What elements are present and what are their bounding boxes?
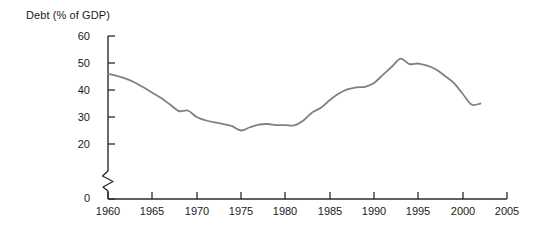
- debt-series-line: [108, 59, 480, 131]
- y-axis-ticks: [108, 36, 115, 199]
- y-tick-label-40: 40: [62, 84, 90, 96]
- x-tick-label-1960: 1960: [96, 205, 120, 217]
- x-tick-label-1970: 1970: [185, 205, 209, 217]
- x-tick-label-1995: 1995: [406, 205, 430, 217]
- x-tick-label-1965: 1965: [140, 205, 164, 217]
- y-tick-label-0: 0: [62, 192, 90, 204]
- x-tick-label-1985: 1985: [318, 205, 342, 217]
- y-tick-label-20: 20: [62, 138, 90, 150]
- x-tick-label-1990: 1990: [362, 205, 386, 217]
- x-tick-label-2000: 2000: [451, 205, 475, 217]
- y-axis-break-zigzag-icon: [103, 171, 114, 191]
- y-tick-label-50: 50: [62, 57, 90, 69]
- y-tick-label-60: 60: [62, 30, 90, 42]
- x-axis-ticks: [108, 192, 507, 199]
- y-tick-label-30: 30: [62, 111, 90, 123]
- x-tick-label-2005: 2005: [495, 205, 519, 217]
- x-tick-label-1975: 1975: [229, 205, 253, 217]
- x-tick-label-1980: 1980: [273, 205, 297, 217]
- debt-gdp-line-chart: Debt (% of GDP): [0, 0, 551, 225]
